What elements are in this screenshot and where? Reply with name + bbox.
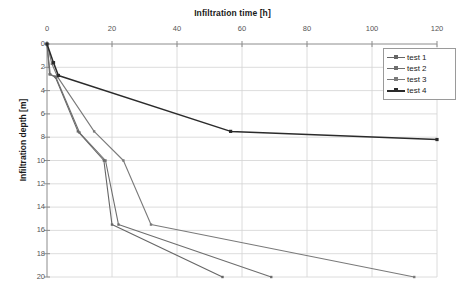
y-tick-label: 4 (21, 86, 45, 95)
x-tick-label: 120 (422, 24, 452, 33)
legend-swatch-icon (386, 86, 406, 95)
y-tick-label: 14 (21, 202, 45, 211)
plot-area: 020406080100120 02468101214161820 (47, 44, 437, 277)
legend-label: test 1 (406, 53, 427, 62)
y-tick-label: 0 (21, 39, 45, 48)
legend-swatch-icon (386, 75, 406, 84)
x-tick-label: 20 (97, 24, 127, 33)
chart-title: Infiltration time [h] (0, 8, 465, 18)
legend-swatch-icon (386, 64, 406, 73)
y-tick-label: 12 (21, 179, 45, 188)
series-marker (435, 138, 438, 141)
legend-swatch-icon (386, 53, 406, 62)
series-marker (270, 276, 272, 278)
series-marker (111, 223, 113, 225)
series-marker (52, 61, 55, 64)
legend-item-test-3[interactable]: test 3 (386, 74, 452, 85)
series-marker (413, 276, 415, 278)
x-tick-label: 40 (162, 24, 192, 33)
x-tick-label: 80 (292, 24, 322, 33)
plot-svg (47, 44, 437, 277)
legend-label: test 3 (406, 75, 427, 84)
legend-label: test 2 (406, 64, 427, 73)
series-marker (122, 159, 124, 161)
legend-item-test-1[interactable]: test 1 (386, 52, 452, 63)
series-marker (45, 42, 48, 45)
infiltration-chart: Infiltration time [h] Infiltration depth… (0, 0, 465, 299)
series-marker (78, 131, 80, 133)
y-tick-label: 8 (21, 132, 45, 141)
y-tick-label: 10 (21, 156, 45, 165)
x-tick-label: 0 (32, 24, 62, 33)
y-tick-label: 20 (21, 272, 45, 281)
legend-label: test 4 (406, 86, 427, 95)
y-tick-label: 16 (21, 225, 45, 234)
legend-item-test-4[interactable]: test 4 (386, 85, 452, 96)
series-marker (93, 130, 95, 132)
y-tick-label: 2 (21, 62, 45, 71)
chart-legend: test 1test 2test 3test 4 (383, 48, 456, 100)
x-tick-label: 60 (227, 24, 257, 33)
series-marker (117, 223, 119, 225)
y-tick-label: 6 (21, 109, 45, 118)
legend-item-test-2[interactable]: test 2 (386, 63, 452, 74)
series-marker (57, 74, 60, 77)
x-tick-label: 100 (357, 24, 387, 33)
series-marker (150, 223, 152, 225)
series-marker (104, 159, 106, 161)
series-marker (49, 73, 51, 75)
series-marker (221, 276, 223, 278)
y-tick-label: 18 (21, 249, 45, 258)
series-marker (229, 130, 232, 133)
